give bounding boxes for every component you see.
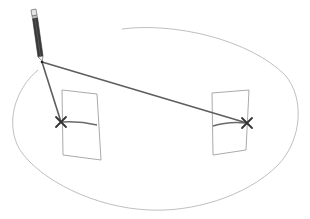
ellipse-outline: [13, 28, 299, 211]
left-curve: [62, 122, 97, 125]
pencil-icon: [31, 9, 43, 63]
right-curve: [213, 122, 247, 126]
line-to-left-x: [42, 62, 61, 122]
diagram-canvas: [0, 0, 310, 219]
